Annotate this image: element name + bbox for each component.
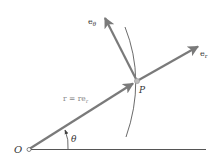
angle-theta-label: θ <box>71 134 77 144</box>
point-p-label: P <box>138 85 146 95</box>
constant-r-arc <box>125 27 136 137</box>
e-r-subscript: r <box>205 53 208 59</box>
svg-text:er: er <box>200 49 208 59</box>
polar-coordinates-diagram: O P θ r = rer er eθ <box>0 0 215 162</box>
position-vector-subscript: r <box>86 98 89 104</box>
e-r-label: er <box>200 49 208 59</box>
e-theta-label: eθ <box>88 17 97 27</box>
origin-point <box>27 148 31 152</box>
svg-text:eθ: eθ <box>88 17 97 27</box>
unit-vector-e-r <box>137 47 198 82</box>
angle-theta-arc <box>65 130 68 149</box>
svg-text:r = rer: r = rer <box>63 94 89 104</box>
e-theta-subscript: θ <box>93 21 97 27</box>
origin-label: O <box>14 144 22 155</box>
position-vector-label: r = rer <box>63 94 89 104</box>
point-p <box>134 78 139 83</box>
position-vector-text: r = re <box>63 94 86 103</box>
